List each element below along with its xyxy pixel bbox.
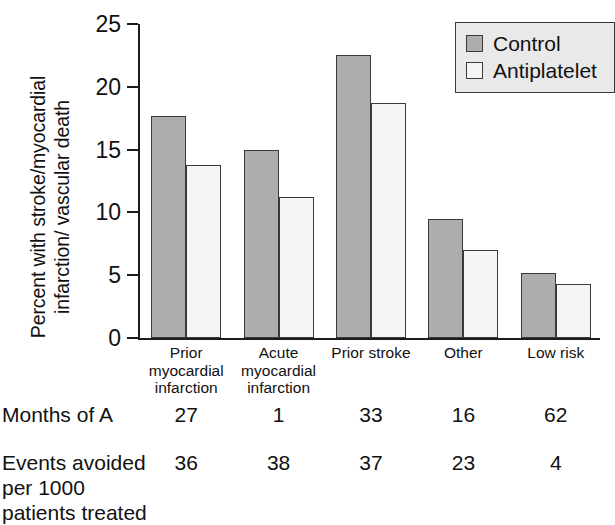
x-category-label-2-line-3: infarction bbox=[224, 379, 332, 397]
bar-control-3 bbox=[336, 55, 371, 338]
legend-swatch-control bbox=[466, 35, 483, 52]
table-row-label-2-line-3: patients treated bbox=[2, 500, 147, 525]
bar-control-2 bbox=[244, 150, 279, 338]
data-table: Months of A271331662Events avoidedper 10… bbox=[0, 402, 600, 515]
legend-label-antiplatelet: Antiplatelet bbox=[493, 60, 597, 81]
legend-swatch-antiplatelet bbox=[466, 62, 483, 79]
y-tick-5: 5 bbox=[127, 274, 138, 276]
y-tick-15: 15 bbox=[127, 149, 138, 151]
x-category-label-2-line-2: myocardial bbox=[224, 362, 332, 380]
y-tick-label-15: 15 bbox=[95, 138, 121, 161]
y-tick-25: 25 bbox=[127, 23, 138, 25]
y-axis-title-line-2: infarction/ vascular death bbox=[50, 100, 74, 314]
y-axis-title-line-1: Percent with stroke/myocardial bbox=[26, 76, 50, 339]
table-row-label-2-line-1: Events avoided bbox=[2, 450, 147, 475]
x-category-label-5-line-1: Low risk bbox=[502, 344, 610, 362]
bar-antiplatelet-3 bbox=[371, 103, 406, 338]
x-axis-category-labels: PriormyocardialinfarctionAcutemyocardial… bbox=[140, 344, 600, 400]
table-row-label-1-line-1: Months of A bbox=[2, 402, 113, 427]
table-row-label-2-line-2: per 1000 bbox=[2, 475, 147, 500]
y-tick-label-25: 25 bbox=[95, 13, 121, 36]
y-tick-label-5: 5 bbox=[108, 264, 121, 287]
legend: Control Antiplatelet bbox=[455, 22, 615, 93]
y-tick-10: 10 bbox=[127, 211, 138, 213]
legend-item-control: Control bbox=[466, 30, 606, 57]
bar-control-1 bbox=[151, 116, 186, 338]
legend-item-antiplatelet: Antiplatelet bbox=[466, 57, 606, 84]
y-tick-0: 0 bbox=[127, 337, 138, 339]
y-axis-title: Percent with stroke/myocardial infarctio… bbox=[18, 37, 82, 377]
x-category-label-5: Low risk bbox=[502, 344, 610, 362]
table-row-label-1: Months of A bbox=[2, 402, 113, 427]
y-tick-label-10: 10 bbox=[95, 201, 121, 224]
x-axis-line bbox=[138, 338, 600, 340]
bar-control-5 bbox=[521, 273, 556, 338]
y-tick-label-0: 0 bbox=[108, 327, 121, 350]
bar-antiplatelet-1 bbox=[186, 165, 221, 338]
table-cell-r1-c5: 62 bbox=[502, 402, 610, 427]
bar-control-4 bbox=[428, 219, 463, 338]
y-tick-label-20: 20 bbox=[95, 75, 121, 98]
table-row-label-2: Events avoidedper 1000patients treated bbox=[2, 450, 147, 525]
legend-label-control: Control bbox=[493, 33, 561, 54]
table-cell-r2-c5: 4 bbox=[502, 450, 610, 475]
bar-antiplatelet-5 bbox=[556, 284, 591, 338]
y-tick-20: 20 bbox=[127, 86, 138, 88]
bar-antiplatelet-4 bbox=[463, 250, 498, 338]
bar-antiplatelet-2 bbox=[279, 197, 314, 338]
